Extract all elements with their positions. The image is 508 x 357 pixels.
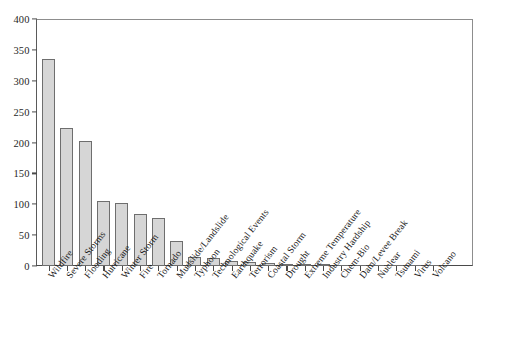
y-axis-tick-mark: [32, 49, 37, 50]
y-axis-tick-mark: [32, 204, 37, 205]
y-axis-tick-mark: [32, 80, 37, 81]
bar: [42, 59, 55, 266]
y-axis-tick-mark: [32, 111, 37, 112]
bar-chart: 050100150200250300350400 WildfireSevere …: [0, 0, 508, 357]
y-axis-tick-mark: [32, 265, 37, 266]
y-axis-tick-mark: [32, 235, 37, 236]
y-axis-tick-mark: [32, 173, 37, 174]
y-axis-tick-mark: [32, 18, 37, 19]
bar: [60, 128, 73, 266]
y-axis-tick-mark: [32, 142, 37, 143]
